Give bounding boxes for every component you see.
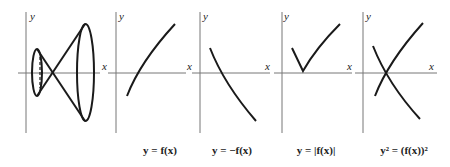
x-axis-label: x: [187, 61, 192, 72]
x-axis-label: x: [429, 61, 434, 72]
caption-sq-f: y² = (f(x))²: [380, 145, 428, 156]
panel-cone: [18, 12, 100, 133]
panel-neg-f: [192, 12, 270, 133]
y-axis-label: y: [119, 11, 124, 22]
y-axis-label: y: [284, 11, 289, 22]
panel-sq-f: [355, 12, 437, 133]
caption-neg-f: y = −f(x): [212, 145, 252, 156]
caption-abs-f: y = |f(x)|: [297, 145, 336, 156]
x-axis-label: x: [347, 61, 352, 72]
curve-pos-branch: [375, 23, 423, 96]
x-axis-label: x: [265, 61, 270, 72]
panel-f: [108, 12, 186, 133]
panel-abs-f: [274, 12, 352, 133]
curve-neg-f: [210, 48, 256, 121]
graph-canvas: [0, 0, 450, 167]
y-axis-label: y: [203, 11, 208, 22]
curve-abs-f: [292, 24, 340, 71]
y-axis-label: y: [30, 11, 35, 22]
x-axis-label: x: [102, 61, 107, 72]
curve-f: [127, 24, 175, 96]
caption-f: y = f(x): [143, 145, 177, 156]
y-axis-label: y: [366, 11, 371, 22]
